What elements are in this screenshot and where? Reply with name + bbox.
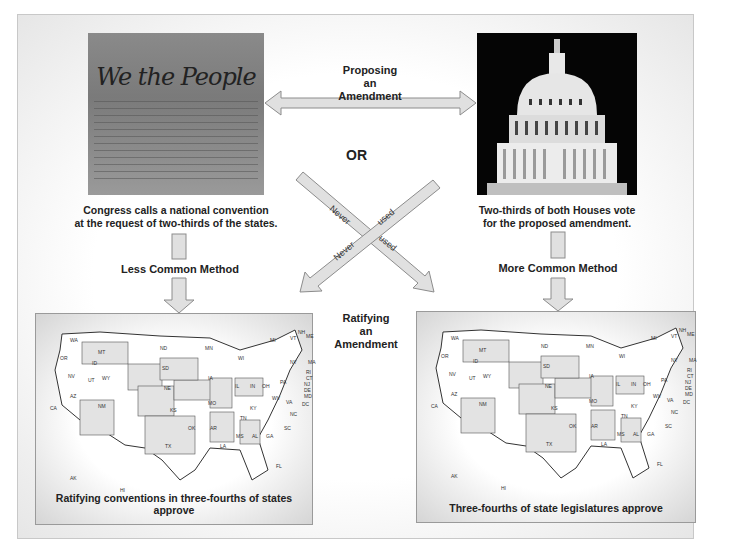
svg-text:OR: OR [60, 355, 68, 361]
ratifying-label: Ratifying an Amendment [320, 312, 412, 351]
svg-text:FL: FL [657, 461, 663, 467]
svg-text:IL: IL [616, 381, 620, 387]
ratifying-line-2: an [320, 325, 412, 338]
svg-text:AR: AR [591, 423, 598, 429]
svg-text:UT: UT [88, 377, 95, 383]
svg-text:MI: MI [270, 337, 276, 343]
svg-text:AL: AL [252, 433, 258, 439]
svg-text:AL: AL [633, 431, 639, 437]
left-map-caption: Ratifying conventions in three-fourths o… [36, 492, 312, 516]
svg-text:ID: ID [473, 358, 478, 364]
svg-text:VA: VA [667, 397, 674, 403]
svg-text:NV: NV [449, 371, 457, 377]
svg-text:SC: SC [665, 423, 672, 429]
svg-text:KS: KS [551, 405, 558, 411]
svg-text:KY: KY [631, 403, 638, 409]
svg-text:NE: NE [164, 385, 172, 391]
svg-text:VA: VA [286, 399, 293, 405]
svg-text:IA: IA [589, 373, 594, 379]
svg-text:LA: LA [601, 441, 608, 447]
svg-text:MO: MO [589, 398, 597, 404]
cross-arrows-icon [296, 172, 440, 292]
svg-text:ND: ND [541, 343, 549, 349]
svg-text:CA: CA [50, 405, 58, 411]
svg-text:NM: NM [98, 403, 106, 409]
svg-text:TN: TN [621, 413, 628, 419]
svg-text:SC: SC [284, 425, 291, 431]
ratifying-line-1: Ratifying [320, 312, 412, 325]
svg-text:AZ: AZ [451, 391, 457, 397]
svg-text:IA: IA [208, 375, 213, 381]
left-us-map: WAORMTWY NDSDNEKS OKTXNMAZ CANVUTID MNIA… [35, 313, 313, 525]
svg-text:MT: MT [479, 347, 486, 353]
svg-text:OK: OK [569, 423, 577, 429]
svg-text:ND: ND [160, 345, 168, 351]
svg-text:SD: SD [162, 365, 169, 371]
svg-text:AK: AK [70, 475, 77, 481]
svg-text:MS: MS [617, 431, 625, 437]
right-down-arrow-icon [543, 278, 573, 311]
left-down-arrow-icon [164, 278, 194, 313]
proposing-line-2: an [320, 77, 420, 90]
svg-text:TX: TX [165, 443, 172, 449]
svg-text:OH: OH [262, 383, 270, 389]
svg-text:NY: NY [671, 357, 679, 363]
svg-text:NY: NY [290, 359, 298, 365]
svg-text:MT: MT [98, 349, 105, 355]
svg-text:GA: GA [266, 433, 274, 439]
more-common-method-label: More Common Method [488, 262, 628, 275]
svg-text:ID: ID [92, 360, 97, 366]
svg-text:CA: CA [431, 403, 439, 409]
svg-text:KY: KY [250, 405, 257, 411]
svg-text:LA: LA [220, 443, 227, 449]
svg-text:ME: ME [306, 333, 314, 339]
svg-text:OK: OK [188, 425, 196, 431]
svg-text:NH: NH [679, 327, 687, 333]
svg-text:TN: TN [240, 415, 247, 421]
svg-text:MD: MD [685, 391, 693, 397]
right-caption: Two-thirds of both Houses vote for the p… [467, 204, 647, 230]
svg-text:OR: OR [441, 353, 449, 359]
svg-text:AZ: AZ [70, 393, 76, 399]
svg-text:UT: UT [469, 375, 476, 381]
right-down-bar [551, 232, 565, 258]
svg-text:FL: FL [276, 463, 282, 469]
right-us-map: WAORMTWY NDSDNEKS OKTXNMAZ CANVUTID MNIA… [416, 311, 696, 523]
left-down-bar [172, 234, 186, 259]
right-caption-line-2: for the proposed amendment. [467, 217, 647, 230]
svg-text:MN: MN [586, 343, 594, 349]
svg-text:ME: ME [687, 331, 695, 337]
proposing-line-3: Amendment [320, 90, 420, 103]
right-map-caption: Three-fourths of state legislatures appr… [417, 502, 695, 514]
svg-text:WI: WI [619, 353, 625, 359]
svg-text:DC: DC [683, 399, 691, 405]
svg-text:MN: MN [205, 345, 213, 351]
svg-text:IN: IN [631, 381, 636, 387]
svg-text:MO: MO [208, 400, 216, 406]
svg-text:NE: NE [545, 383, 553, 389]
svg-text:WA: WA [70, 337, 79, 343]
svg-text:NM: NM [479, 401, 487, 407]
svg-text:NC: NC [671, 409, 679, 415]
svg-text:MA: MA [689, 357, 697, 363]
right-caption-line-1: Two-thirds of both Houses vote [467, 204, 647, 217]
svg-text:VT: VT [671, 333, 677, 339]
svg-text:DC: DC [302, 401, 310, 407]
left-caption-line-2: at the request of two-thirds of the stat… [66, 217, 286, 230]
svg-text:WI: WI [238, 355, 244, 361]
or-label: OR [346, 147, 367, 163]
proposing-label: Proposing an Amendment [320, 64, 420, 103]
svg-text:OH: OH [643, 381, 651, 387]
svg-text:MI: MI [651, 335, 657, 341]
less-common-method-label: Less Common Method [110, 263, 250, 276]
svg-text:WV: WV [272, 395, 281, 401]
svg-text:MD: MD [304, 393, 312, 399]
svg-text:PA: PA [661, 377, 668, 383]
svg-text:NH: NH [298, 329, 306, 335]
svg-text:WA: WA [451, 335, 460, 341]
proposing-line-1: Proposing [320, 64, 420, 77]
left-caption: Congress calls a national convention at … [66, 204, 286, 230]
svg-text:HI: HI [501, 485, 506, 491]
svg-text:VT: VT [290, 335, 296, 341]
svg-text:KS: KS [170, 407, 177, 413]
